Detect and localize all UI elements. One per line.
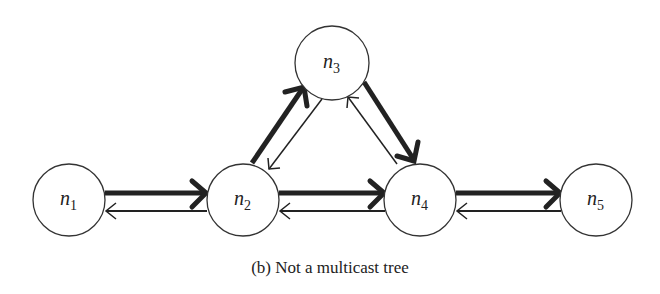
edge-n2-n4-thick: [279, 181, 384, 207]
node-n1: n1: [33, 164, 105, 236]
node-n2: n2: [207, 164, 279, 236]
figure-caption: (b) Not a multicast tree: [0, 258, 660, 278]
edge-n1-n2-thick: [105, 181, 206, 207]
node-n4: n4: [384, 164, 456, 236]
multicast-graph: n1 n2 n3 n4 n5: [0, 0, 660, 294]
edge-n3-n2-thin: [268, 99, 322, 169]
edge-n4-n5-thick: [456, 181, 560, 207]
edge-n2-n3-thick: [252, 87, 307, 163]
edge-n3-n4-thick: [364, 82, 418, 161]
node-n5: n5: [560, 164, 632, 236]
edge-n4-n3-thin: [347, 97, 397, 164]
node-n3: n3: [295, 26, 369, 100]
